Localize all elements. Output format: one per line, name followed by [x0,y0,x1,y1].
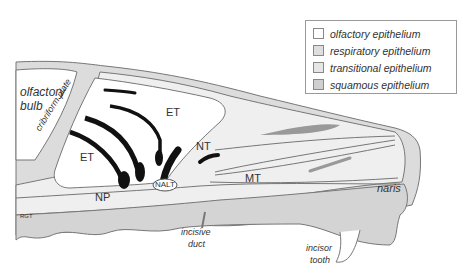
label-et-upper: ET [166,107,180,118]
legend-item-respiratory: respiratory epithelium [313,42,456,59]
legend-item-transitional: transitional epithelium [313,59,456,76]
legend-label: transitional epithelium [330,62,432,74]
label-olfactory-bulb-2: bulb [20,100,43,112]
swatch-respiratory [313,45,324,56]
label-incisive-duct-2: duct [188,240,205,249]
legend-label: olfactory epithelium [330,28,420,40]
label-nalt: NALT [155,181,175,189]
swatch-squamous [313,79,324,90]
label-nt: NT [196,141,211,152]
label-naris: naris [377,183,401,194]
label-incisor-tooth-1: incisor [306,244,332,253]
label-mt: MT [245,173,261,184]
legend-label: squamous epithelium [330,79,429,91]
label-incisive-duct-1: incisive [181,228,211,237]
legend-label: respiratory epithelium [330,45,430,57]
legend: olfactory epithelium respiratory epithel… [305,20,457,94]
legend-item-olfactory: olfactory epithelium [313,25,456,42]
label-et-lower: ET [80,152,94,163]
label-rgt: RGT [20,213,33,219]
legend-item-squamous: squamous epithelium [313,76,456,93]
swatch-transitional [313,62,324,73]
label-incisor-tooth-2: tooth [310,256,330,265]
label-np: NP [95,192,110,203]
swatch-olfactory [313,28,324,39]
